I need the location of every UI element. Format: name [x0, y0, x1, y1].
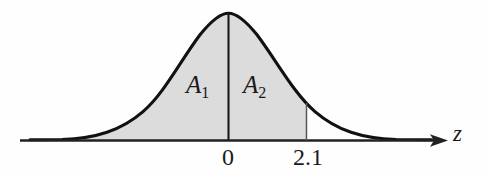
area-label-a1: A1: [186, 72, 209, 97]
area-label-a2-subscript: 2: [258, 84, 266, 101]
area-label-a1-subscript: 1: [201, 84, 209, 101]
x-tick-label-2-1: 2.1: [282, 145, 334, 169]
area-label-a2: A2: [243, 72, 266, 97]
shaded-region-a2: [20, 14, 447, 141]
x-tick-label-zero: 0: [208, 145, 248, 169]
area-label-a2-base: A: [243, 71, 258, 98]
area-label-a1-base: A: [186, 71, 201, 98]
normal-curve-figure: A1 A2 0 2.1 z: [0, 0, 489, 177]
axis-name-z: z: [453, 122, 462, 145]
